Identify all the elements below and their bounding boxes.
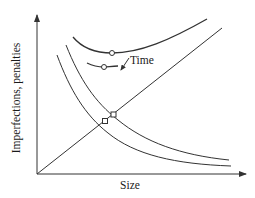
x-axis-label: Size — [120, 179, 140, 191]
time-arrow — [121, 58, 129, 70]
time-annotation: Time — [130, 54, 154, 66]
imperfection-curve-1 — [57, 55, 231, 166]
diagram-canvas — [0, 0, 255, 198]
intersection-marker-2 — [111, 112, 116, 117]
y-axis-label: Imperfections, penalties — [10, 43, 22, 154]
axes — [37, 15, 246, 174]
minimum-marker-2 — [102, 65, 107, 70]
intersection-marker-1 — [103, 119, 108, 124]
minimum-marker-1 — [110, 51, 115, 56]
total-curve-1 — [73, 19, 207, 53]
linear-penalty-line — [37, 28, 222, 174]
